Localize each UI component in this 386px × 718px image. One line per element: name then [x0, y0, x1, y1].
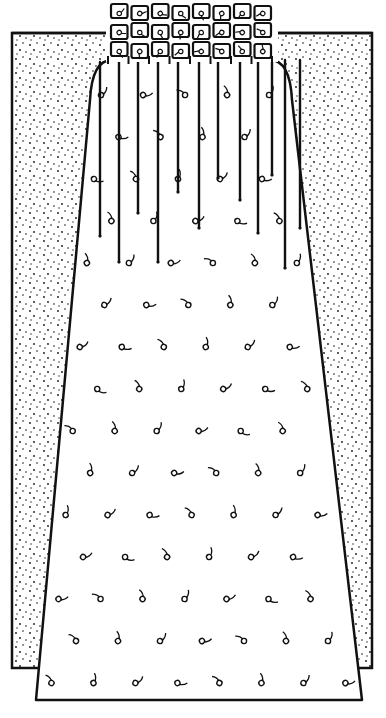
skirt-diagram	[0, 0, 386, 718]
illustration	[0, 0, 386, 718]
